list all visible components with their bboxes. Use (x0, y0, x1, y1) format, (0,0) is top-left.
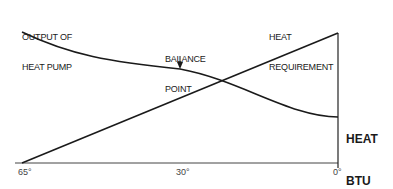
balance-label-line2: POINT (165, 84, 206, 94)
y-axis-label: HEAT BTU (346, 104, 378, 189)
y-axis-label-line1: HEAT (346, 132, 378, 146)
heat-requirement-label: HEAT REQUIREMENT (269, 12, 333, 82)
balance-label-line1: BALANCE (165, 54, 206, 64)
y-axis-label-line2: BTU (346, 174, 378, 188)
heat-pump-label-line2: HEAT PUMP (22, 62, 72, 72)
x-tick-65: 65° (18, 167, 32, 177)
balance-point-label: BALANCE POINT (165, 34, 206, 104)
x-tick-0: 0° (333, 167, 342, 177)
heat-pump-label: OUTPUT OF HEAT PUMP (22, 12, 72, 82)
requirement-label-line2: REQUIREMENT (269, 62, 333, 72)
x-tick-30: 30° (176, 167, 190, 177)
requirement-label-line1: HEAT (269, 32, 333, 42)
heat-pump-label-line1: OUTPUT OF (22, 32, 72, 42)
